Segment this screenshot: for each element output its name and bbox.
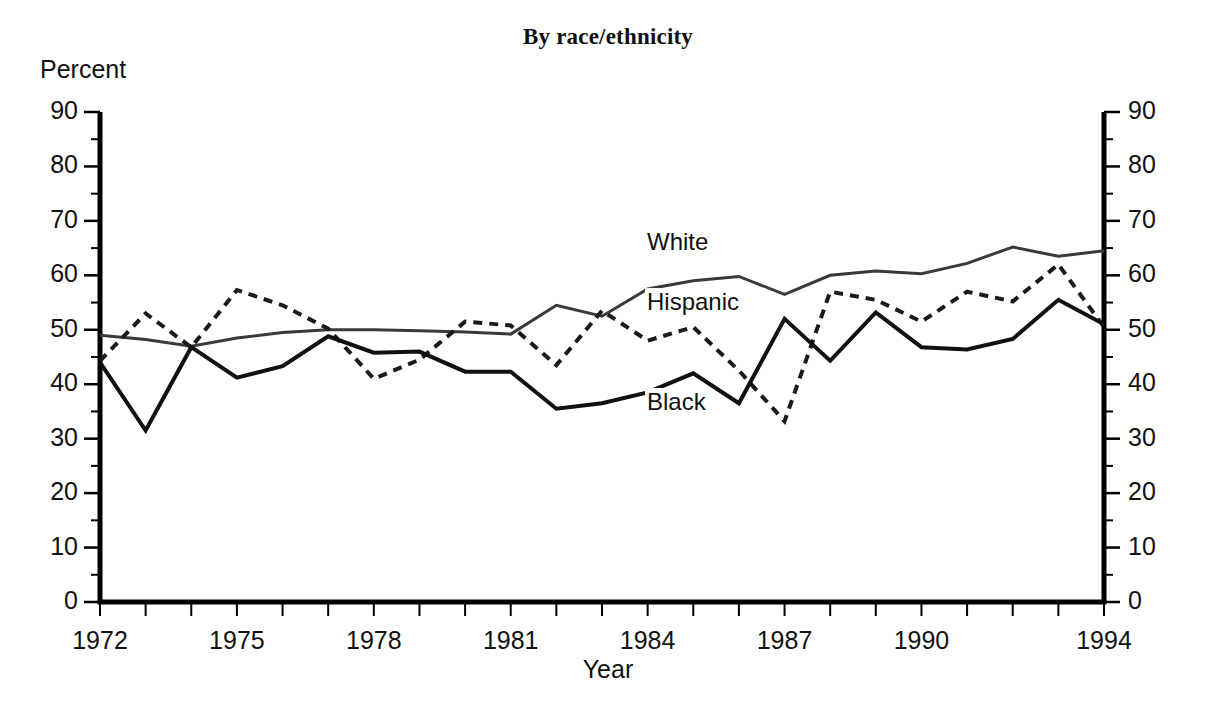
axes-group — [84, 112, 1120, 616]
y-tick-label-right: 70 — [1128, 205, 1178, 234]
x-tick-label: 1990 — [881, 626, 961, 655]
y-tick-label-right: 40 — [1128, 368, 1178, 397]
y-tick-label-left: 40 — [32, 368, 78, 397]
chart-page: By race/ethnicity Percent Year 001010202… — [0, 0, 1216, 715]
y-tick-label-left: 70 — [32, 205, 78, 234]
x-tick-label: 1987 — [745, 626, 825, 655]
y-tick-label-left: 30 — [32, 423, 78, 452]
x-tick-label: 1975 — [197, 626, 277, 655]
y-tick-label-right: 90 — [1128, 96, 1178, 125]
y-tick-label-right: 50 — [1128, 314, 1178, 343]
series-label-black: Black — [645, 388, 708, 416]
y-tick-label-left: 20 — [32, 477, 78, 506]
y-tick-label-left: 10 — [32, 532, 78, 561]
y-tick-label-right: 30 — [1128, 423, 1178, 452]
x-tick-label: 1984 — [608, 626, 688, 655]
y-tick-label-right: 20 — [1128, 477, 1178, 506]
y-tick-label-left: 90 — [32, 96, 78, 125]
y-tick-label-right: 80 — [1128, 150, 1178, 179]
y-tick-label-right: 0 — [1128, 586, 1178, 615]
y-tick-label-right: 60 — [1128, 259, 1178, 288]
series-line-hispanic — [100, 264, 1104, 421]
line-chart-plot — [0, 0, 1216, 715]
series-group — [100, 247, 1104, 430]
y-tick-label-left: 50 — [32, 314, 78, 343]
y-tick-label-left: 80 — [32, 150, 78, 179]
y-tick-label-left: 0 — [32, 586, 78, 615]
x-tick-label: 1994 — [1064, 626, 1144, 655]
y-tick-label-left: 60 — [32, 259, 78, 288]
x-tick-label: 1981 — [471, 626, 551, 655]
y-tick-label-right: 10 — [1128, 532, 1178, 561]
series-label-white: White — [645, 228, 710, 256]
series-line-black — [100, 300, 1104, 431]
x-tick-label: 1972 — [60, 626, 140, 655]
series-label-hispanic: Hispanic — [645, 288, 741, 316]
x-tick-label: 1978 — [334, 626, 414, 655]
